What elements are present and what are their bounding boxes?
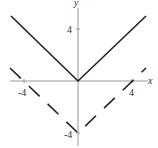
chart: x y -4 4 4 -4 xyxy=(0,0,158,148)
y-tick-label-4: 4 xyxy=(67,24,72,35)
x-axis-label: x xyxy=(147,75,153,86)
x-tick-label-4: 4 xyxy=(129,87,134,98)
y-axis-label: y xyxy=(73,0,79,8)
y-tick-label-neg4: -4 xyxy=(64,129,72,140)
x-tick-label-neg4: -4 xyxy=(18,87,26,98)
